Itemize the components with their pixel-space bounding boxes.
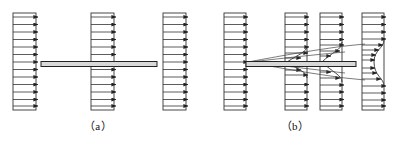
- panel-b-caption: （b）: [197, 117, 393, 133]
- panel-a-caption: （a）: [0, 117, 196, 133]
- figure-root: （a） （b）: [0, 0, 393, 142]
- flat-plate-a: [41, 62, 157, 67]
- flat-plate-b: [246, 62, 356, 67]
